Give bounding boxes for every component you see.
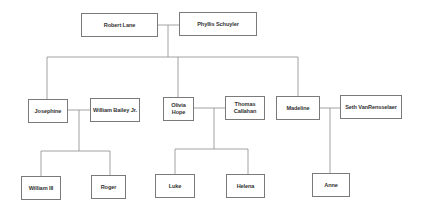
person-roger: Roger xyxy=(91,175,126,199)
person-phyllis-schuyler: Phyllis Schuyler xyxy=(179,12,257,36)
person-helena: Helena xyxy=(226,174,265,198)
person-label: William Bailey Jr. xyxy=(91,107,139,114)
person-label: Robert Lane xyxy=(102,22,138,29)
person-label: Roger xyxy=(99,184,119,191)
person-label: William III xyxy=(27,185,56,192)
person-seth-vanrensselaer: Seth VanRensselaer xyxy=(340,95,402,119)
person-josephine: Josephine xyxy=(28,99,68,123)
person-label: Olivia Hope xyxy=(164,102,193,116)
person-label: Madeline xyxy=(284,105,311,112)
person-thomas-callahan: Thomas Callahan xyxy=(225,96,265,120)
person-anne: Anne xyxy=(312,173,350,197)
person-madeline: Madeline xyxy=(276,96,320,120)
person-label: Phyllis Schuyler xyxy=(195,21,241,28)
person-luke: Luke xyxy=(155,174,195,198)
person-label: Anne xyxy=(322,182,340,189)
person-label: Luke xyxy=(167,183,184,190)
person-william-iii: William III xyxy=(21,176,61,200)
person-olivia-hope: Olivia Hope xyxy=(163,97,194,121)
family-tree-diagram: Robert Lane Phyllis Schuyler Josephine W… xyxy=(0,0,425,213)
person-label: Seth VanRensselaer xyxy=(343,104,399,111)
person-robert-lane: Robert Lane xyxy=(81,13,158,37)
person-label: Josephine xyxy=(33,108,64,115)
person-label: Helena xyxy=(235,183,257,190)
person-william-bailey-jr: William Bailey Jr. xyxy=(90,98,140,122)
person-label: Thomas Callahan xyxy=(226,101,264,115)
